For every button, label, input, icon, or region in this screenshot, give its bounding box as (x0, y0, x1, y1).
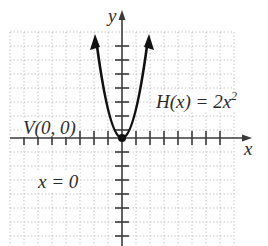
vertex-label: V(0, 0) (22, 118, 77, 137)
x-axis-label: x (244, 139, 252, 158)
y-axis-label: y (108, 6, 116, 25)
function-label-text: H(x) = 2x (156, 91, 231, 112)
function-label-exponent: 2 (231, 89, 237, 103)
function-label: H(x) = 2x2 (155, 92, 238, 111)
vertex-point (118, 134, 126, 142)
y-axis-arrow-icon (119, 10, 126, 20)
axis-of-symmetry-label: x = 0 (36, 172, 80, 191)
